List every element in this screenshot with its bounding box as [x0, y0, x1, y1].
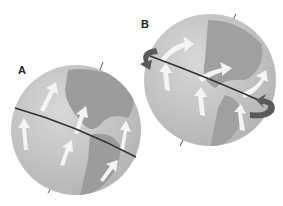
axis-top-a — [100, 62, 103, 70]
globe-a — [11, 62, 141, 195]
globe-b — [140, 14, 276, 148]
globes-diagram — [0, 0, 283, 206]
